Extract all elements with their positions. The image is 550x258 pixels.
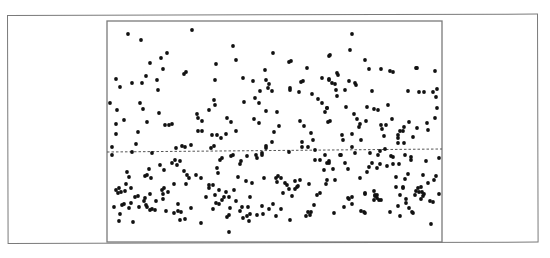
data-point [212, 98, 216, 102]
data-point [382, 134, 386, 138]
data-point [414, 189, 418, 193]
data-point [376, 153, 380, 157]
data-point [159, 56, 163, 60]
data-point [332, 211, 336, 215]
data-point [263, 68, 267, 72]
data-point [267, 207, 271, 211]
data-point [397, 162, 401, 166]
data-point [134, 142, 138, 146]
data-point [434, 174, 438, 178]
data-point [112, 205, 116, 209]
data-point [419, 185, 423, 189]
data-point [114, 132, 118, 136]
data-point [118, 85, 122, 89]
data-point [227, 195, 231, 199]
data-point [275, 110, 279, 114]
data-point [213, 193, 217, 197]
data-point [270, 140, 274, 144]
data-point [431, 200, 435, 204]
data-point [234, 129, 238, 133]
data-point [404, 197, 408, 201]
data-point [114, 122, 118, 126]
data-point [368, 151, 372, 155]
data-point [257, 121, 261, 125]
data-point [141, 107, 145, 111]
data-point [343, 161, 347, 165]
data-point [388, 210, 392, 214]
data-point [394, 175, 398, 179]
data-point [183, 217, 187, 221]
data-point [262, 176, 266, 180]
data-point [434, 95, 438, 99]
data-point [207, 108, 211, 112]
data-point [385, 164, 389, 168]
data-point [376, 108, 380, 112]
data-point [307, 182, 311, 186]
data-point [370, 161, 374, 165]
data-point [396, 136, 400, 140]
data-point [200, 129, 204, 133]
data-point [305, 66, 309, 70]
data-point [379, 67, 383, 71]
data-point [240, 205, 244, 209]
data-point [122, 202, 126, 206]
scatter-plot [0, 0, 550, 258]
data-point [323, 153, 327, 157]
data-point [322, 168, 326, 172]
data-point [386, 103, 390, 107]
data-point [266, 86, 270, 90]
data-point [315, 193, 319, 197]
data-point [279, 207, 283, 211]
data-point [207, 186, 211, 190]
data-point [409, 158, 413, 162]
data-point [124, 182, 128, 186]
data-point [213, 103, 217, 107]
data-point [293, 187, 297, 191]
data-point [156, 88, 160, 92]
data-point [144, 74, 148, 78]
data-point [379, 198, 383, 202]
data-point [241, 216, 245, 220]
data-point [174, 146, 178, 150]
data-point [383, 147, 387, 151]
data-point [302, 124, 306, 128]
data-point [173, 158, 177, 162]
data-point [290, 194, 294, 198]
data-point [340, 133, 344, 137]
data-point [350, 145, 354, 149]
data-point [213, 78, 217, 82]
data-point [398, 193, 402, 197]
data-point [130, 81, 134, 85]
data-point [365, 170, 369, 174]
data-point [215, 133, 219, 137]
data-point [241, 76, 245, 80]
data-point [350, 32, 354, 36]
data-point [252, 117, 256, 121]
data-point [272, 130, 276, 134]
data-point [316, 97, 320, 101]
data-point [118, 212, 122, 216]
data-point [271, 51, 275, 55]
data-point [148, 61, 152, 65]
data-point [309, 131, 313, 135]
data-point [227, 230, 231, 234]
data-point [143, 196, 147, 200]
data-point [163, 123, 167, 127]
data-point [248, 212, 252, 216]
data-point [251, 79, 255, 83]
data-point [184, 70, 188, 74]
data-point [311, 138, 315, 142]
data-point [217, 188, 221, 192]
data-point [426, 128, 430, 132]
data-point [429, 222, 433, 226]
data-point [127, 206, 131, 210]
data-point [353, 151, 357, 155]
data-point [260, 153, 264, 157]
data-point [333, 82, 337, 86]
data-point [431, 90, 435, 94]
data-point [162, 186, 166, 190]
data-point [287, 150, 291, 154]
data-point [350, 132, 354, 136]
data-point [194, 173, 198, 177]
data-point [264, 78, 268, 82]
